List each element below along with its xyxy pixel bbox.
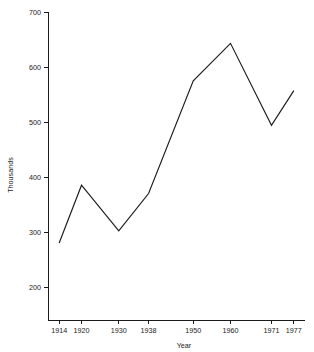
x-tick-label: 1950 (185, 326, 201, 335)
y-tick-label: 600 (29, 63, 41, 72)
x-tick-label: 1914 (51, 326, 67, 335)
x-tick-label: 1938 (141, 326, 157, 335)
x-tick-label: 1977 (286, 326, 302, 335)
y-tick-label: 500 (29, 118, 41, 127)
chart-canvas: 200300400500600700 191419201930193819501… (0, 0, 314, 352)
y-tick-label: 200 (29, 283, 41, 292)
line-chart: 200300400500600700 191419201930193819501… (0, 0, 314, 352)
y-axis-title: Thousands (6, 157, 15, 193)
x-tick-label: 1920 (74, 326, 90, 335)
x-axis-title: Year (177, 341, 192, 350)
y-tick-label: 300 (29, 228, 41, 237)
x-tick-label: 1971 (263, 326, 279, 335)
y-tick-label: 400 (29, 173, 41, 182)
x-tick-label: 1930 (111, 326, 127, 335)
y-tick-label: 700 (29, 8, 41, 17)
x-tick-label: 1960 (223, 326, 239, 335)
chart-background (0, 0, 314, 352)
